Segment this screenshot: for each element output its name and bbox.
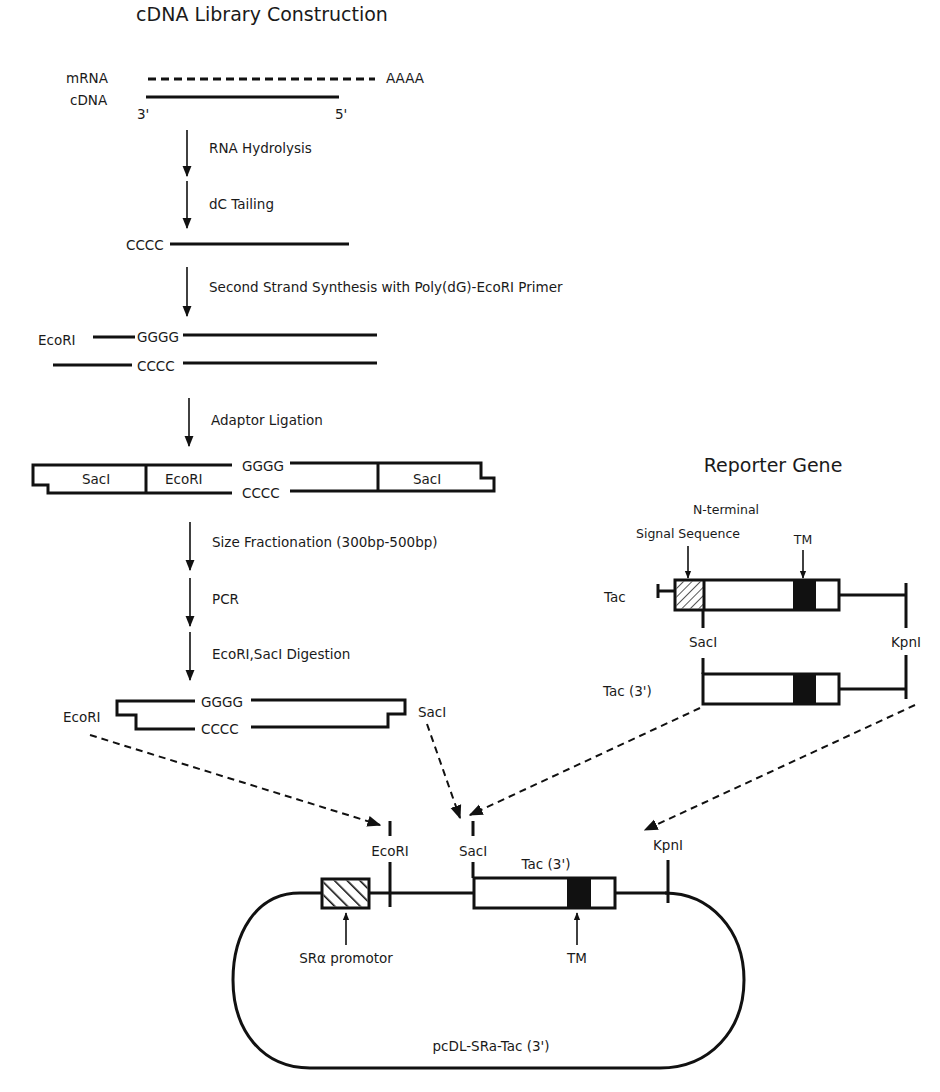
step-arrows: RNA Hydrolysis dC Tailing xyxy=(187,130,312,228)
adaptor-saci-left: SacI xyxy=(82,471,110,487)
step-dc-tailing: dC Tailing xyxy=(209,196,274,212)
double-strand-cdna: EcoRI GGGG CCCC xyxy=(38,329,377,374)
plasmid-ecori-label: EcoRI xyxy=(371,843,409,859)
plasmid-insert-label: Tac (3') xyxy=(521,856,571,872)
tac3-label: Tac (3') xyxy=(602,683,652,699)
gggg-label: GGGG xyxy=(137,329,179,345)
plasmid-saci-label: SacI xyxy=(459,843,487,859)
digested-right-end xyxy=(251,700,405,727)
ecori-label: EcoRI xyxy=(38,332,76,348)
step-adaptor-ligation: Adaptor Ligation xyxy=(211,412,323,428)
digested-fragment: GGGG CCCC EcoRI SacI xyxy=(63,694,446,737)
signal-seq-label-1: N-terminal xyxy=(693,502,759,517)
sra-promoter-label: SRα promotor xyxy=(299,950,393,966)
saci-connector-arrow xyxy=(427,724,460,818)
ecori-connector-arrow xyxy=(90,735,380,825)
tac3-saci-connector-arrow xyxy=(470,708,700,815)
reporter-tac: N-terminal Signal Sequence TM Tac SacI K… xyxy=(603,502,921,650)
tm-block xyxy=(793,674,816,704)
tac3-gene-box xyxy=(703,674,839,704)
signal-sequence-hatched xyxy=(677,582,705,609)
cdna-label: cDNA xyxy=(70,92,108,108)
step-size-fractionation: Size Fractionation (300bp-500bp) xyxy=(212,534,438,550)
digested-gggg: GGGG xyxy=(201,694,243,710)
reporter-kpni-label: KpnI xyxy=(891,634,921,650)
plasmid-kpni-label: KpnI xyxy=(653,837,683,853)
tm-block xyxy=(793,580,816,610)
adaptor-cccc: CCCC xyxy=(242,485,280,501)
step-rna-hydrolysis: RNA Hydrolysis xyxy=(209,140,312,156)
cdna-library-construction-diagram: cDNA Library Construction Reporter Gene … xyxy=(0,0,940,1092)
tac3-kpni-connector-arrow xyxy=(645,705,915,830)
adaptor-gggg: GGGG xyxy=(242,458,284,474)
adaptor-ligated-fragment: SacI EcoRI GGGG CCCC SacI xyxy=(33,458,494,501)
step-pcr: PCR xyxy=(212,591,239,607)
step-second-strand: Second Strand Synthesis with Poly(dG)-Ec… xyxy=(209,279,563,295)
plasmid-pcdl-sra-tac: EcoRI SacI Tac (3') KpnI SRα promotor TM… xyxy=(233,821,744,1068)
digested-left-end xyxy=(117,701,195,729)
digested-ecori-label: EcoRI xyxy=(63,709,101,725)
plasmid-tm-label: TM xyxy=(566,950,587,966)
left-title: cDNA Library Construction xyxy=(136,3,388,25)
reporter-tac-3prime: Tac (3') xyxy=(602,655,906,704)
tm-label-reporter: TM xyxy=(793,532,812,547)
digested-saci-label: SacI xyxy=(418,704,446,720)
mrna-label: mRNA xyxy=(66,70,109,86)
five-prime-label: 5' xyxy=(335,106,347,122)
plasmid-tm-block xyxy=(567,878,591,908)
tac-label: Tac xyxy=(603,589,626,605)
step-ecori-saci-digestion: EcoRI,SacI Digestion xyxy=(212,646,350,662)
adaptor-ecori: EcoRI xyxy=(165,471,203,487)
cccc-tail: CCCC xyxy=(126,237,164,253)
reporter-saci-label: SacI xyxy=(689,634,717,650)
plasmid-tac3-box xyxy=(474,878,615,908)
signal-seq-label-2: Signal Sequence xyxy=(636,526,740,541)
plasmid-name: pcDL-SRa-Tac (3') xyxy=(433,1038,550,1054)
digested-cccc: CCCC xyxy=(201,721,239,737)
mrna-cdna-hybrid: mRNA cDNA AAAA 3' 5' xyxy=(66,70,425,122)
polya-tail: AAAA xyxy=(386,70,425,86)
sra-promoter-hatched xyxy=(324,881,368,907)
right-title: Reporter Gene xyxy=(704,454,843,476)
cccc-label: CCCC xyxy=(137,358,175,374)
adaptor-saci-right: SacI xyxy=(413,471,441,487)
three-prime-label: 3' xyxy=(137,106,149,122)
right-adaptor xyxy=(290,463,494,491)
